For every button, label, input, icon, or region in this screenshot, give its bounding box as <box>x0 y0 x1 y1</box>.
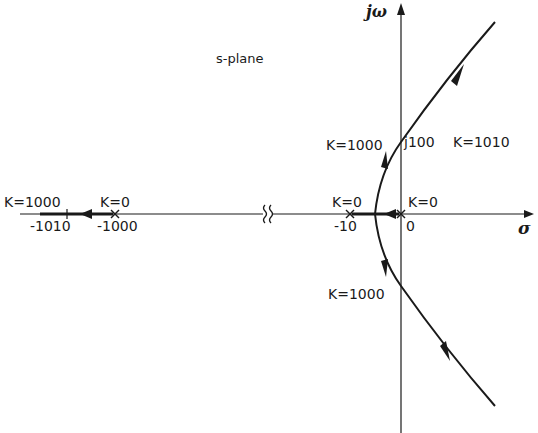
imaginary-axis <box>397 3 405 433</box>
real-axis-arrow-icon <box>524 210 534 218</box>
tick-label-minus-1000: -1000 <box>97 219 138 233</box>
imaginary-axis-label: jω <box>366 4 387 20</box>
tick-label-minus-10: -10 <box>334 219 357 233</box>
plane-label: s-plane <box>216 52 264 65</box>
gain-label-left-end: K=1000 <box>4 195 61 209</box>
gain-label-upper-crossing-right: K=1010 <box>453 135 510 149</box>
direction-arrow-icon <box>384 209 396 219</box>
gain-label-lower-crossing: K=1000 <box>328 287 385 301</box>
locus-branch-lower <box>375 214 495 406</box>
direction-arrow-icon <box>381 151 388 169</box>
axis-break-icon <box>264 205 273 223</box>
gain-label-pole-origin: K=0 <box>408 195 438 209</box>
tick-label-minus-1010: -1010 <box>30 219 71 233</box>
direction-arrow-icon <box>80 209 92 219</box>
direction-arrow-icon <box>381 259 388 277</box>
tick-label-j100: j100 <box>404 135 435 149</box>
imaginary-axis-arrow-icon <box>397 3 405 15</box>
gain-label-pole-minus-1000: K=0 <box>100 195 130 209</box>
locus-branch-upper <box>375 22 495 214</box>
gain-label-pole-minus-10: K=0 <box>332 195 362 209</box>
tick-label-zero: 0 <box>406 219 415 233</box>
real-axis-label: σ <box>518 220 531 237</box>
gain-label-upper-crossing-left: K=1000 <box>326 138 383 152</box>
root-locus-diagram <box>0 0 538 433</box>
